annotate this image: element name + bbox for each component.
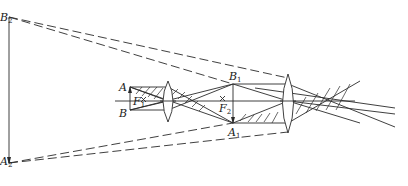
label-a1: A1: [227, 126, 240, 140]
objective-rays: [130, 84, 233, 123]
intermediate-image-arrow: [231, 84, 235, 124]
label-b: B: [118, 107, 127, 120]
label-f2: F2: [218, 102, 231, 116]
label-f1: F1: [132, 95, 145, 109]
label-a: A: [118, 81, 127, 94]
virtual-ray-extensions: [9, 17, 288, 163]
eyepiece-lens: [283, 74, 294, 133]
final-image-arrow: [7, 17, 11, 165]
label-b1: B1: [228, 70, 242, 84]
label-b2: B2: [0, 11, 13, 25]
optics-diagram: B2 A2 A B F1 F2 B1 A1: [0, 0, 408, 186]
object-arrow: [128, 86, 132, 110]
focal-point-f2-marker: [220, 96, 225, 101]
